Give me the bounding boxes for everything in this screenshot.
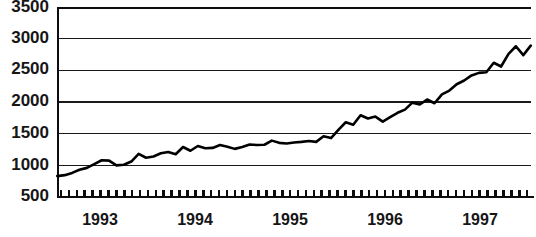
- y-axis-tick-labels: 3500 3000 2500 2000 1500 1000 500: [11, 0, 49, 205]
- ytick-label-1000: 1000: [11, 155, 49, 174]
- xtick-label-1996: 1996: [367, 211, 403, 228]
- data-series-line: [57, 46, 530, 176]
- xtick-label-1994: 1994: [177, 211, 213, 228]
- chart-figure: 3500 3000 2500 2000 1500 1000 500 1993 1…: [0, 0, 536, 237]
- xtick-label-1993: 1993: [82, 211, 118, 228]
- xtick-label-1995: 1995: [272, 211, 308, 228]
- line-chart: 3500 3000 2500 2000 1500 1000 500 1993 1…: [0, 0, 536, 237]
- ytick-label-1500: 1500: [11, 123, 49, 142]
- x-axis-tick-labels: 1993 1994 1995 1996 1997: [82, 211, 498, 228]
- xtick-label-1997: 1997: [462, 211, 498, 228]
- ytick-label-3000: 3000: [11, 28, 49, 47]
- ytick-label-500: 500: [21, 186, 49, 205]
- gridlines: [57, 39, 531, 166]
- ytick-label-2000: 2000: [11, 91, 49, 110]
- ytick-label-2500: 2500: [11, 59, 49, 78]
- ytick-label-3500: 3500: [11, 0, 49, 16]
